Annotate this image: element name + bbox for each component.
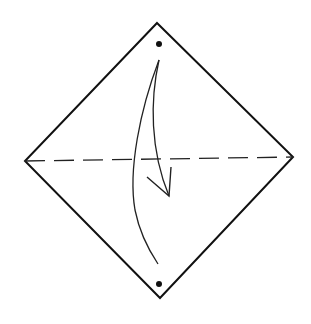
bottom-dot bbox=[156, 281, 162, 287]
fold-arrow-outer-curve bbox=[133, 60, 159, 264]
top-dot bbox=[156, 41, 162, 47]
valley-fold-line bbox=[25, 157, 293, 161]
origami-diagram bbox=[0, 0, 311, 324]
fold-arrow-inner-curve bbox=[153, 60, 169, 196]
